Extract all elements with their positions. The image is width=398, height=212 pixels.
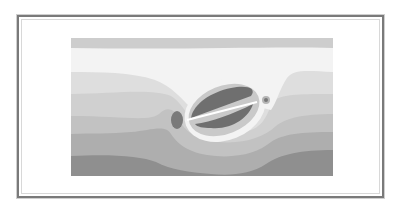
right-tip-spot xyxy=(264,98,268,102)
left-tip-spot xyxy=(171,111,183,129)
band-top xyxy=(71,38,333,49)
contour-plot-svg xyxy=(71,38,333,176)
contour-plot xyxy=(71,38,333,176)
